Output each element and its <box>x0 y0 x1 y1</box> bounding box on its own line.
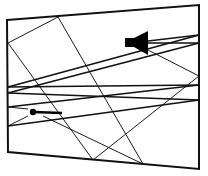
microphone-handle <box>33 112 62 113</box>
microphone-icon <box>30 109 62 115</box>
microphone-head <box>30 109 36 115</box>
speaker-body <box>125 38 134 47</box>
sound-ray <box>8 107 28 109</box>
sound-ray <box>148 35 199 41</box>
sound-ray <box>8 17 58 43</box>
sound-rays <box>8 17 199 164</box>
room-diagram <box>0 0 208 176</box>
